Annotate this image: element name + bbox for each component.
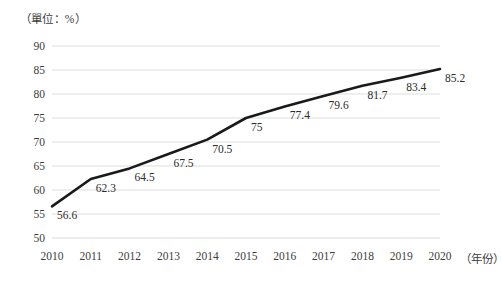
x-axis-tick-label: 2017 bbox=[304, 250, 344, 262]
x-axis-tick-label: 2010 bbox=[32, 250, 72, 262]
x-axis-tick-label: 2014 bbox=[187, 250, 227, 262]
x-axis-title: （年份） bbox=[460, 250, 502, 266]
x-axis-tick-label: 2013 bbox=[148, 250, 188, 262]
data-point-label: 70.5 bbox=[212, 143, 232, 155]
data-point-label: 62.3 bbox=[96, 182, 116, 194]
gridlines bbox=[52, 46, 440, 238]
y-axis-tick-label: 50 bbox=[19, 232, 45, 244]
y-axis-tick-label: 80 bbox=[19, 88, 45, 100]
x-axis-tick-label: 2012 bbox=[110, 250, 150, 262]
data-point-label: 56.6 bbox=[57, 209, 77, 221]
x-axis-tick-label: 2018 bbox=[342, 250, 382, 262]
y-axis-tick-label: 55 bbox=[19, 208, 45, 220]
data-point-label: 79.6 bbox=[329, 99, 349, 111]
y-axis-tick-label: 65 bbox=[19, 160, 45, 172]
data-point-label: 75 bbox=[251, 121, 263, 133]
x-axis-tick-label: 2020 bbox=[420, 250, 460, 262]
data-point-label: 67.5 bbox=[173, 157, 193, 169]
data-point-label: 77.4 bbox=[290, 109, 310, 121]
data-point-label: 64.5 bbox=[135, 171, 155, 183]
y-axis-tick-label: 85 bbox=[19, 64, 45, 76]
data-point-label: 83.4 bbox=[406, 81, 426, 93]
data-point-label: 85.2 bbox=[445, 72, 465, 84]
x-axis-tick-label: 2011 bbox=[71, 250, 111, 262]
y-axis-tick-label: 70 bbox=[19, 136, 45, 148]
x-axis-tick-label: 2019 bbox=[381, 250, 421, 262]
y-axis-tick-label: 60 bbox=[19, 184, 45, 196]
x-axis-tick-label: 2015 bbox=[226, 250, 266, 262]
x-axis-tick-label: 2016 bbox=[265, 250, 305, 262]
y-axis-tick-label: 75 bbox=[19, 112, 45, 124]
data-point-label: 81.7 bbox=[367, 89, 387, 101]
y-axis-tick-label: 90 bbox=[19, 40, 45, 52]
